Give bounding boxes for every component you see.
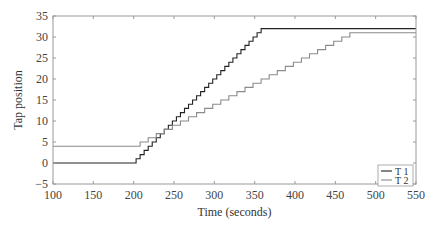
plot-background bbox=[53, 16, 416, 184]
x-axis-title: Time (seconds) bbox=[198, 205, 272, 219]
plot-area bbox=[53, 16, 416, 184]
x-tick-label: 200 bbox=[125, 188, 143, 202]
x-tick-label: 400 bbox=[286, 188, 304, 202]
y-tick-label: −5 bbox=[35, 177, 48, 191]
legend-label: T 2 bbox=[395, 175, 408, 186]
y-tick-label: 10 bbox=[36, 114, 48, 128]
y-tick-label: 35 bbox=[36, 9, 48, 23]
y-tick-label: 15 bbox=[36, 93, 48, 107]
x-tick-label: 450 bbox=[326, 188, 344, 202]
y-tick-label: 25 bbox=[36, 51, 48, 65]
y-tick-label: 20 bbox=[36, 72, 48, 86]
x-tick-label: 500 bbox=[367, 188, 385, 202]
x-tick-label: 250 bbox=[165, 188, 183, 202]
tap-position-chart: 100150200250300350400450500550−505101520… bbox=[0, 0, 440, 238]
legend: T 1T 2 bbox=[378, 165, 413, 186]
x-tick-label: 150 bbox=[84, 188, 102, 202]
y-tick-label: 30 bbox=[36, 30, 48, 44]
y-tick-label: 0 bbox=[42, 156, 48, 170]
x-tick-label: 350 bbox=[246, 188, 264, 202]
x-tick-label: 550 bbox=[407, 188, 425, 202]
x-tick-label: 300 bbox=[205, 188, 223, 202]
y-tick-label: 5 bbox=[42, 135, 48, 149]
y-axis-title: Tap position bbox=[11, 70, 25, 130]
